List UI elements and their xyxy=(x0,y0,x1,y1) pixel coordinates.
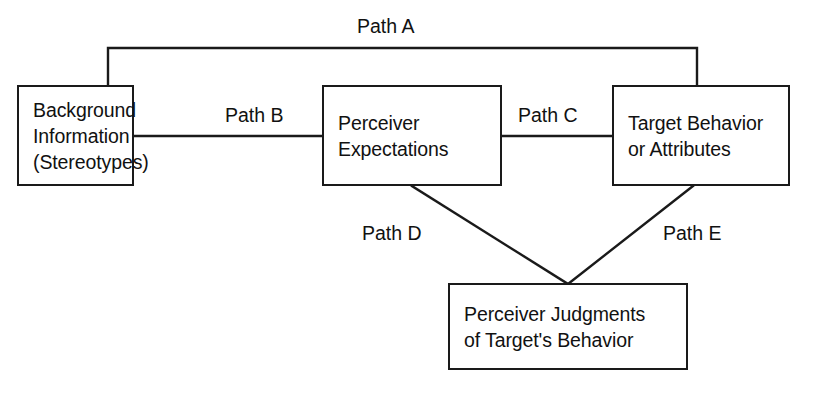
node-line: of Target's Behavior xyxy=(464,327,633,353)
path-label-b: Path B xyxy=(225,104,284,126)
node-line: or Attributes xyxy=(628,136,731,162)
node-perceiver-judgments[interactable]: Perceiver Judgments of Target's Behavior xyxy=(448,283,688,370)
node-line: Expectations xyxy=(338,136,448,162)
node-line: Information xyxy=(33,123,129,149)
node-line: Target Behavior xyxy=(628,110,763,136)
path-label-c: Path C xyxy=(518,104,578,126)
node-line: Perceiver xyxy=(338,110,419,136)
node-line: (Stereotypes) xyxy=(33,149,149,175)
connector-layer xyxy=(0,0,820,393)
path-d-connector xyxy=(412,186,568,284)
diagram-canvas: Background Information (Stereotypes) Per… xyxy=(0,0,820,393)
node-background-information[interactable]: Background Information (Stereotypes) xyxy=(17,85,134,186)
path-a-connector xyxy=(108,48,697,86)
path-label-d: Path D xyxy=(362,222,422,244)
path-label-a: Path A xyxy=(357,15,414,37)
node-target-behavior[interactable]: Target Behavior or Attributes xyxy=(612,85,790,186)
node-line: Background xyxy=(33,97,136,123)
node-perceiver-expectations[interactable]: Perceiver Expectations xyxy=(322,85,502,186)
path-label-e: Path E xyxy=(663,222,722,244)
node-line: Perceiver Judgments xyxy=(464,301,645,327)
